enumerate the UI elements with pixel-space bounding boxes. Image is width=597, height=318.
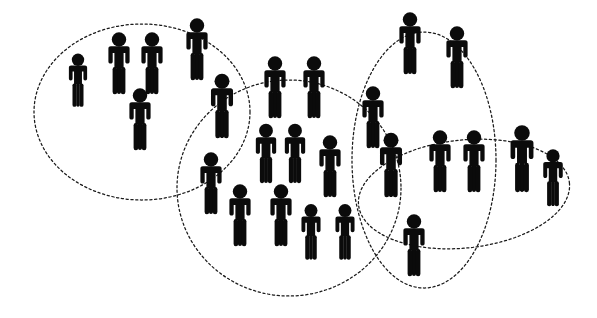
person-pictogram: [264, 56, 285, 118]
person-pictogram: [211, 74, 233, 138]
person-pictogram: [186, 18, 207, 80]
person-pictogram: [380, 133, 402, 197]
person-pictogram: [229, 184, 250, 246]
person-pictogram: [270, 184, 291, 246]
person-pictogram: [543, 149, 563, 206]
person-pictogram: [285, 124, 305, 183]
person-pictogram: [200, 152, 221, 214]
person-pictogram: [511, 125, 534, 192]
person-pictogram: [403, 214, 424, 276]
person-pictogram: [429, 130, 450, 192]
person-pictogram: [256, 124, 276, 183]
person-pictogram: [319, 135, 340, 197]
person-pictogram: [129, 88, 150, 150]
person-pictogram: [335, 204, 354, 260]
person-pictogram: [303, 56, 324, 118]
person-pictogram: [301, 204, 320, 260]
person-pictogram: [141, 32, 162, 94]
person-pictogram: [362, 86, 383, 148]
clusters-scene: [0, 0, 597, 318]
illustration-canvas: [0, 0, 597, 318]
person-pictogram: [399, 12, 420, 74]
person-pictogram: [446, 26, 467, 88]
person-pictogram: [69, 54, 87, 107]
person-pictogram: [108, 32, 129, 94]
people-pictograms: [69, 12, 563, 276]
